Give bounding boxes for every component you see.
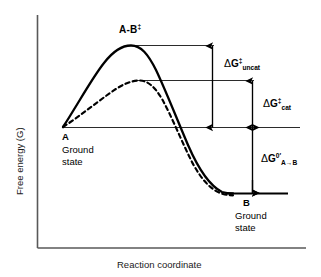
subscript-a-to-b: A→B <box>281 159 297 166</box>
delta-symbol: Δ <box>224 57 231 69</box>
reference-levels <box>62 46 300 194</box>
standard-state-prime-symbol: 0′ <box>276 152 281 159</box>
product-letter: B <box>243 197 250 208</box>
reactant-letter: A <box>62 131 69 142</box>
transition-state-label: A-B‡ <box>119 24 141 36</box>
double-dagger-icon: ‡ <box>137 23 141 30</box>
delta-symbol: Δ <box>261 152 268 164</box>
g-symbol: G <box>270 98 278 109</box>
energy-curves <box>63 46 233 196</box>
x-axis-title: Reaction coordinate <box>117 259 202 270</box>
energy-diagram-figure: Free energy (G) Reaction coordinate A-B‡… <box>0 0 321 277</box>
g-symbol: G <box>268 153 276 164</box>
double-dagger-icon: ‡ <box>278 97 282 104</box>
annotation-dg-cat: ΔG‡cat <box>263 97 291 110</box>
product-ground-state-line2: state <box>235 222 256 233</box>
curve-uncatalyzed <box>63 46 233 194</box>
reactant-ground-state-line1: Ground <box>62 144 94 155</box>
annotation-dg-uncat: ΔG‡uncat <box>224 57 260 70</box>
subscript-uncat: uncat <box>242 64 260 71</box>
y-axis-title: Free energy (G) <box>14 127 25 195</box>
product-ground-state-line1: Ground <box>235 210 267 221</box>
g-symbol: G <box>231 58 239 69</box>
reactant-ground-state-line2: state <box>62 156 83 167</box>
subscript-cat: cat <box>281 104 291 111</box>
double-dagger-icon: ‡ <box>239 57 243 64</box>
energy-diagram-svg <box>0 0 321 277</box>
delta-symbol: Δ <box>263 97 270 109</box>
transition-state-text: A-B <box>119 24 137 35</box>
annotation-dg-reaction: ΔG0′A→B <box>261 152 297 165</box>
